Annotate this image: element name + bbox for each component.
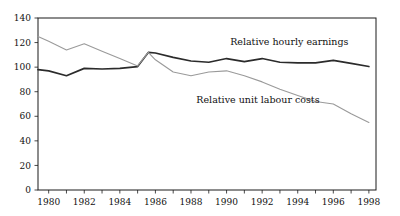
y-tick-label: 60: [20, 111, 32, 121]
y-tick-label: 0: [25, 185, 31, 195]
x-tick-label: 1984: [108, 197, 131, 207]
y-tick-label: 80: [20, 87, 32, 97]
x-tick-label: 1990: [215, 197, 238, 207]
y-tick-label: 20: [20, 161, 32, 171]
y-axis-ticks: 020406080100120140: [14, 13, 38, 195]
y-tick-label: 120: [14, 38, 31, 48]
x-tick-label: 1992: [251, 197, 274, 207]
x-tick-label: 1994: [286, 197, 309, 207]
series-annotation-label: Relative hourly earnings: [230, 36, 348, 47]
series-annotations: Relative hourly earningsRelative unit la…: [196, 36, 348, 105]
x-tick-label: 1982: [73, 197, 96, 207]
series-annotation-label: Relative unit labour costs: [196, 94, 319, 105]
y-tick-label: 100: [14, 62, 31, 72]
y-tick-label: 140: [14, 13, 31, 23]
data-series-group: [38, 36, 369, 122]
series-line: [38, 36, 369, 122]
x-tick-label: 1998: [357, 197, 380, 207]
x-tick-label: 1996: [322, 197, 345, 207]
y-tick-label: 40: [20, 136, 32, 146]
x-tick-label: 1988: [180, 197, 203, 207]
x-tick-label: 1980: [37, 197, 60, 207]
x-axis-ticks: 1980198219841986198819901992199419961998: [37, 190, 380, 207]
line-chart: 020406080100120140 198019821984198619881…: [0, 0, 400, 216]
series-line: [38, 52, 369, 75]
chart-container: 020406080100120140 198019821984198619881…: [0, 0, 400, 216]
x-tick-label: 1986: [144, 197, 167, 207]
